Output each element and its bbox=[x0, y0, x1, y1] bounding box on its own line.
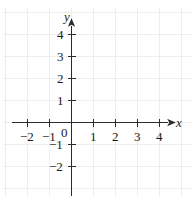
x-axis-label: x bbox=[176, 116, 182, 129]
coordinate-plane-figure: −2 −1 1 2 3 4 0 4 3 2 1 −1 −2 x y bbox=[0, 0, 194, 202]
y-tick-label-4: 4 bbox=[57, 28, 64, 41]
x-tick-label--2: −2 bbox=[20, 130, 34, 143]
x-tick-label-1: 1 bbox=[90, 130, 97, 143]
x-tick-label-3: 3 bbox=[134, 130, 141, 143]
y-tick-label-3: 3 bbox=[57, 50, 64, 63]
y-tick-label--2: −2 bbox=[49, 160, 63, 173]
x-tick-label-2: 2 bbox=[112, 130, 119, 143]
x-tick-label-4: 4 bbox=[156, 130, 163, 143]
axes-and-ticks bbox=[0, 0, 194, 202]
y-tick-label-2: 2 bbox=[57, 72, 64, 85]
y-tick-label-1: 1 bbox=[57, 94, 64, 107]
y-axis-label: y bbox=[64, 10, 70, 23]
y-tick-label--1: −1 bbox=[49, 138, 63, 151]
